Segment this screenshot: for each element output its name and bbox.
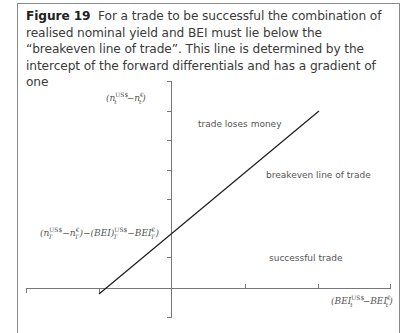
y-intercept-label: (nUS$T−n€T)−(BEI)US$T−BEI€T) bbox=[40, 226, 159, 240]
annotation-trade-loses-money: trade loses money bbox=[198, 119, 282, 129]
x-axis bbox=[26, 284, 391, 293]
annotation-successful-trade: successful trade bbox=[269, 253, 343, 263]
y-axis bbox=[167, 81, 172, 318]
x-axis-label: (BEIUS$t−BEI€t) bbox=[331, 294, 393, 308]
annotation-breakeven-line: breakeven line of trade bbox=[266, 170, 371, 180]
breakeven-line bbox=[99, 111, 319, 294]
y-axis-label: (nUS$t−n€t) bbox=[106, 91, 146, 105]
